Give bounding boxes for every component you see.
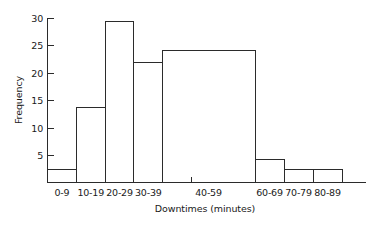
bar-10-19 bbox=[76, 108, 105, 183]
y-tick-label-20: 20 bbox=[31, 68, 43, 79]
bar-0-9 bbox=[48, 169, 77, 182]
y-tick-label-30: 30 bbox=[31, 13, 43, 24]
x-tick-label-80-89: 80-89 bbox=[314, 187, 341, 198]
y-axis-ticks bbox=[48, 19, 54, 156]
bar-80-89 bbox=[313, 169, 342, 182]
x-tick-label-0-9: 0-9 bbox=[54, 187, 69, 198]
x-axis-ticks bbox=[48, 177, 343, 183]
histogram-figure: 30 25 20 15 10 5 bbox=[0, 0, 377, 227]
bar-20-29 bbox=[105, 22, 134, 183]
x-tick-label-60-69: 60-69 bbox=[256, 187, 283, 198]
x-axis-tick-labels: 0-9 10-19 20-29 30-39 40-59 60-69 70-79 … bbox=[54, 187, 341, 198]
x-tick-label-20-29: 20-29 bbox=[106, 187, 133, 198]
x-tick-label-10-19: 10-19 bbox=[77, 187, 104, 198]
y-tick-label-25: 25 bbox=[31, 40, 43, 51]
bar-40-59 bbox=[163, 50, 255, 182]
y-axis-title: Frequency bbox=[13, 75, 24, 124]
y-tick-label-5: 5 bbox=[37, 150, 43, 161]
bar-30-39 bbox=[134, 62, 163, 182]
y-tick-label-10: 10 bbox=[31, 123, 43, 134]
bar-60-69 bbox=[255, 159, 284, 183]
y-tick-label-15: 15 bbox=[31, 95, 43, 106]
histogram-bars bbox=[48, 22, 343, 183]
x-tick-label-30-39: 30-39 bbox=[135, 187, 162, 198]
x-axis-title: Downtimes (minutes) bbox=[155, 203, 255, 214]
x-tick-label-40-59: 40-59 bbox=[195, 187, 222, 198]
bar-70-79 bbox=[284, 169, 313, 182]
histogram-plot-area: 30 25 20 15 10 5 bbox=[0, 0, 377, 227]
x-tick-label-70-79: 70-79 bbox=[285, 187, 312, 198]
y-axis-tick-labels: 30 25 20 15 10 5 bbox=[31, 13, 43, 161]
